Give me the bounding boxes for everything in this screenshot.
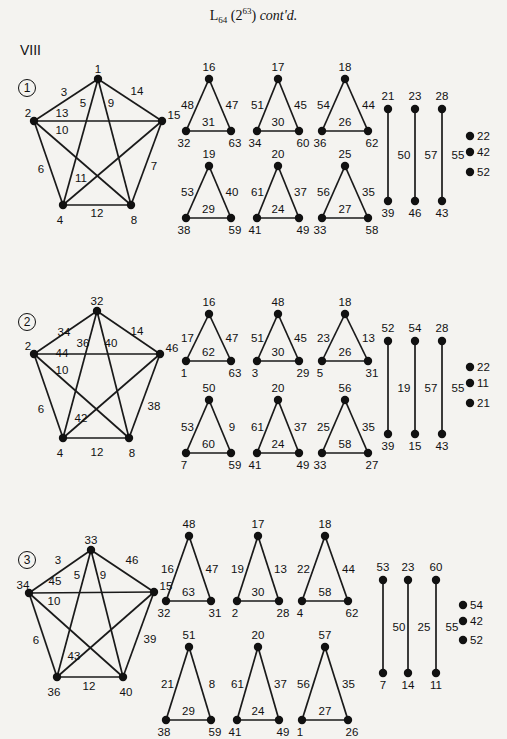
vertex-label: 21 [477,397,490,409]
triangle-component: 163263484731 [178,61,242,149]
triangle-base-left [318,127,326,135]
vertex-label: 60 [297,137,310,149]
vertex-label: 14 [402,679,415,691]
triangle-base-left [182,449,190,457]
segment-bottom-vertex [411,430,419,438]
edge-weight-label: 37 [294,186,307,198]
vertex-label: 56 [339,382,352,394]
isolated-node [466,379,474,387]
edge-weight-label: 63 [182,586,195,598]
segment-bottom-vertex [411,197,419,205]
triangle-base-left [318,214,326,222]
triangle-base-right [295,127,303,135]
segment-component: 541557 [409,322,438,452]
triangle-base-left [318,357,326,365]
triangle-base-right [344,716,352,724]
edge-weight-label: 14 [131,85,144,97]
triangle-component: 253358563527 [314,148,379,236]
graph-3: 3333415364034645591063943124832311647631… [17,518,484,738]
edge-weight-label: 12 [91,207,104,219]
edge-weight-label: 25 [317,421,330,433]
isolated-node [466,168,474,176]
vertex-label: 7 [380,679,386,691]
pentagon-vertex [119,673,127,681]
triangle-component: 16163174762 [181,296,242,379]
vertex-label: 29 [297,367,310,379]
vertex-label: 28 [277,607,290,619]
segment-component: 523919 [382,322,411,452]
vertex-label: 36 [48,686,61,698]
isolated-vertex: 52 [466,166,490,178]
vertex-label: 8 [129,447,135,459]
edge-weight-label: 44 [56,347,69,359]
segment-top-vertex [379,576,387,584]
edge-weight-label: 50 [393,621,406,633]
vertex-label: 18 [319,518,332,530]
edge-weight-label: 26 [339,116,352,128]
triangle-apex [185,532,193,540]
triangle-component: 17228191330 [231,518,289,619]
isolated-node [466,148,474,156]
triangle-component: 183662544426 [314,61,379,149]
triangle-component: 204149613724 [249,382,310,471]
triangle-base-left [298,597,306,605]
edge-weight-label: 10 [56,364,69,376]
vertex-label: 18 [339,296,352,308]
vertex-label: 1 [95,63,101,75]
edge-weight-label: 54 [317,99,330,111]
vertex-label: 58 [366,224,379,236]
triangle-apex [185,643,193,651]
vertex-label: 17 [272,61,285,73]
triangle-apex [205,75,213,83]
edge-weight-label: 39 [144,633,157,645]
isolated-vertex: 52 [459,634,483,646]
edge-weight-label: 22 [297,563,310,575]
pentagon-vertex [53,673,61,681]
vertex-label: 16 [203,61,216,73]
isolated-node [466,399,474,407]
segment-top-vertex [411,337,419,345]
triangle-base-left [253,214,261,222]
segment-top-vertex [411,105,419,113]
graph-1: 1121548314135910671112163263484731173460… [19,61,490,236]
edge-weight-label: 19 [231,563,244,575]
edge-weight-label: 9 [100,569,106,581]
edge-weight-label: 21 [161,678,174,690]
vertex-label: 20 [272,382,285,394]
edge-weight-label: 24 [272,203,285,215]
triangle-apex [341,162,349,170]
edge-weight-label: 6 [33,634,39,646]
circled-number-text: 2 [24,315,31,329]
edge-weight-label: 45 [49,575,62,587]
circled-number-text: 3 [24,553,31,567]
vertex-label: 32 [91,295,104,307]
vertex-label: 4 [297,607,304,619]
graph-diagram-canvas: 1121548314135910671112163263484731173460… [0,0,507,739]
pentagon-vertex [156,350,164,358]
triangle-apex [321,643,329,651]
triangle-base-right [344,597,352,605]
segment-top-vertex [432,576,440,584]
triangle-base-left [182,357,190,365]
pentagon-vertex [59,434,67,442]
edge-weight-label: 13 [56,107,69,119]
vertex-label: 63 [229,367,242,379]
edge-weight-label: 57 [425,382,438,394]
edge-weight-label: 12 [91,446,104,458]
edge-weight-label: 5 [80,97,86,109]
pentagon-vertex [158,117,166,125]
isolated-node [466,363,474,371]
vertex-label: 4 [57,447,64,459]
edge-weight-label: 37 [294,421,307,433]
edge-weight-label: 23 [317,332,330,344]
edge-weight-label: 42 [75,412,88,424]
edge-weight-label: 40 [105,337,118,349]
edge-weight-label: 37 [274,678,287,690]
edge-weight-label: 51 [251,332,264,344]
segment-top-vertex [438,337,446,345]
edge-weight-label: 60 [202,438,215,450]
triangle-apex [341,310,349,318]
vertex-label: 52 [382,322,395,334]
vertex-label: 4 [57,214,64,226]
isolated-vertex: 11 [466,377,489,389]
